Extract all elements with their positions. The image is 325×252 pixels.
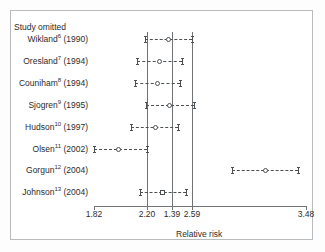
- x-axis-title: Relative risk: [176, 229, 222, 239]
- study-year: (2002): [61, 144, 88, 154]
- study-label-wikland: Wikland6 (1990): [0, 34, 92, 44]
- study-label-olsen: Olsen11 (2002): [0, 144, 92, 154]
- column-header-study-omitted: Study omitted: [14, 22, 66, 32]
- study-year: (1990): [61, 34, 88, 44]
- forest-plot-figure: Study omitted Wikland6 (1990)Oresland7 (…: [0, 0, 325, 252]
- study-label-sjogren: Sjogren9 (1995): [0, 100, 92, 110]
- study-author: Gorgun: [26, 165, 54, 175]
- study-author: Oresland: [23, 56, 58, 66]
- study-author: Sjogren: [28, 100, 57, 110]
- study-year: (2004): [61, 187, 88, 197]
- study-label-couniham: Couniham8 (1994): [0, 78, 92, 88]
- study-author: Olsen: [33, 144, 55, 154]
- study-year: (1995): [61, 100, 88, 110]
- study-label-oresland: Oresland7 (1994): [0, 56, 92, 66]
- study-author: Hudson: [25, 122, 54, 132]
- study-label-johnson: Johnson13 (2004): [0, 187, 92, 197]
- study-author: Wikland: [27, 34, 57, 44]
- study-label-gorgun: Gorgun12 (2004): [0, 165, 92, 175]
- study-year: (1997): [61, 122, 88, 132]
- study-year: (2004): [61, 165, 88, 175]
- study-year: (1994): [61, 78, 88, 88]
- study-year: (1994): [61, 56, 88, 66]
- study-label-hudson: Hudson10 (1997): [0, 122, 92, 132]
- study-author: Couniham: [19, 78, 58, 88]
- study-author: Johnson: [22, 187, 54, 197]
